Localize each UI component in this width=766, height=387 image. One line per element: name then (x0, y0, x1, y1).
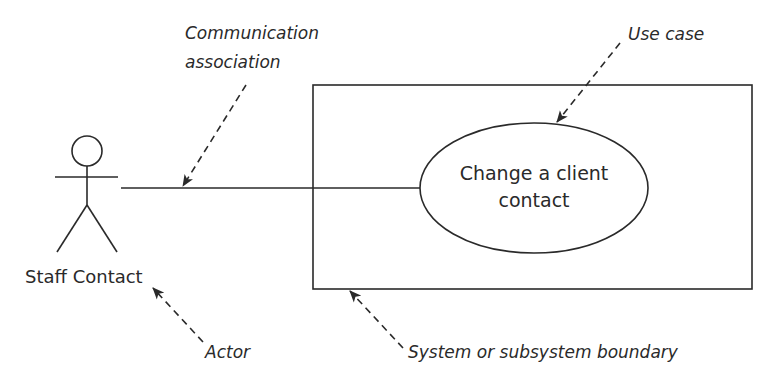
use-case-annotation-label: Use case (628, 23, 704, 45)
use-case-label-line1: Change a client (420, 160, 648, 187)
system-boundary-annotation-label: System or subsystem boundary (408, 341, 678, 363)
diagram-canvas (0, 0, 766, 387)
use-case-label-line2: contact (420, 187, 648, 214)
use-case-pointer-arrow (557, 43, 620, 122)
boundary-pointer-arrow (350, 291, 403, 348)
actor-pointer-arrow (153, 288, 203, 342)
communication-association-label-line1: Communication (185, 22, 319, 44)
actor-annotation-label: Actor (205, 341, 250, 363)
association-pointer-arrow (183, 85, 246, 186)
actor-name-label: Staff Contact (25, 266, 143, 288)
actor-icon (55, 136, 118, 252)
use-case-label: Change a client contact (420, 160, 648, 214)
communication-association-label: Communication association (185, 22, 319, 73)
communication-association-label-line2: association (185, 51, 319, 73)
